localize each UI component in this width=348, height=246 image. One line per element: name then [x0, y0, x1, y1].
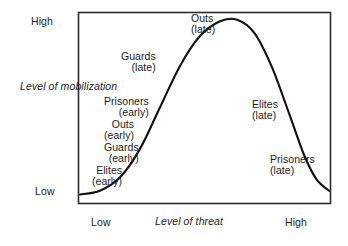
- chart-figure: High Low Level of mobilization Low High …: [0, 0, 348, 246]
- annotation-outs-early: Outs (early): [104, 119, 134, 141]
- x-axis-tick-high: High: [285, 217, 307, 229]
- annotation-elites-early: Elites (early): [92, 165, 122, 187]
- x-axis-title-line2: threat: [196, 215, 223, 227]
- annotation-guards-early: Guards (early): [104, 142, 139, 164]
- annotation-guards-early-phase: (early): [104, 153, 139, 164]
- annotation-outs-late: Outs (late): [191, 13, 215, 35]
- plot-area-svg: [0, 0, 348, 246]
- annotation-prisoners-early: Prisoners (early): [104, 96, 149, 118]
- y-axis-tick-high: High: [31, 16, 53, 28]
- x-axis-tick-low: Low: [91, 217, 111, 229]
- annotation-guards-late-phase: (late): [121, 62, 156, 73]
- x-axis-title: Level of threat: [155, 216, 223, 228]
- annotation-prisoners-early-phase: (early): [104, 107, 149, 118]
- annotation-guards-late: Guards (late): [121, 51, 156, 73]
- y-axis-tick-low: Low: [35, 186, 55, 198]
- y-axis-title-line2: mobilization: [61, 80, 118, 92]
- annotation-prisoners-late: Prisoners (late): [270, 154, 315, 176]
- y-axis-title: Level of mobilization: [20, 81, 117, 93]
- annotation-outs-late-phase: (late): [191, 24, 215, 35]
- y-axis-title-line1: Level of: [20, 80, 58, 92]
- annotation-elites-late: Elites (late): [252, 99, 278, 121]
- annotation-outs-early-phase: (early): [104, 130, 134, 141]
- annotation-prisoners-late-phase: (late): [270, 165, 315, 176]
- annotation-elites-early-phase: (early): [92, 176, 122, 187]
- x-axis-title-line1: Level of: [155, 215, 193, 227]
- annotation-elites-late-phase: (late): [252, 110, 278, 121]
